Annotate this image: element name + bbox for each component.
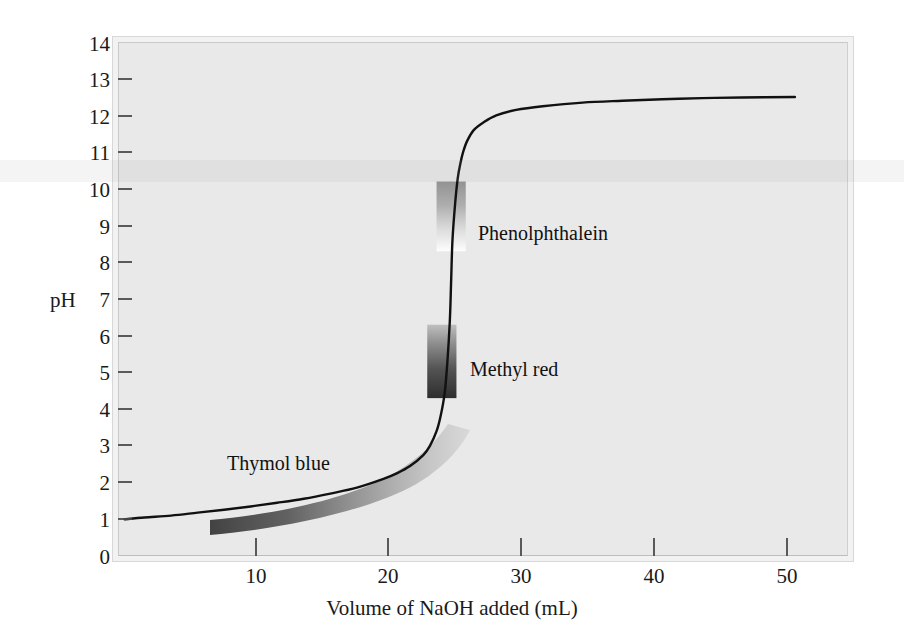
ytick-label-4: 4 xyxy=(70,400,110,421)
titration-curve-figure: 0 1 2 3 4 5 6 7 8 9 10 11 12 13 14 10 20… xyxy=(0,0,904,637)
ytick-label-0: 0 xyxy=(70,547,110,568)
xtick-label-20: 20 xyxy=(358,566,418,587)
indicator-band-methyl-red xyxy=(427,325,456,398)
y-axis-ticks xyxy=(118,79,132,519)
indicator-band-thymol-blue xyxy=(210,424,470,535)
x-axis-ticks xyxy=(256,538,787,556)
plot-area xyxy=(118,42,848,556)
label-methyl-red: Methyl red xyxy=(470,358,558,381)
ytick-label-9: 9 xyxy=(70,217,110,238)
xtick-label-50: 50 xyxy=(757,566,817,587)
ytick-label-10: 10 xyxy=(70,180,110,201)
ytick-label-8: 8 xyxy=(70,253,110,274)
xtick-label-10: 10 xyxy=(226,566,286,587)
ytick-label-6: 6 xyxy=(70,327,110,348)
y-axis-title: pH xyxy=(50,288,76,313)
label-thymol-blue: Thymol blue xyxy=(227,452,330,475)
xtick-label-30: 30 xyxy=(491,566,551,587)
ytick-label-7: 7 xyxy=(70,290,110,311)
ytick-label-3: 3 xyxy=(70,436,110,457)
ytick-label-11: 11 xyxy=(70,143,110,164)
ytick-label-14: 14 xyxy=(70,34,110,55)
x-axis-tick-labels: 10 20 30 40 50 xyxy=(118,566,848,594)
ytick-label-5: 5 xyxy=(70,363,110,384)
chart-canvas xyxy=(118,42,848,556)
titration-curve xyxy=(125,97,795,519)
ytick-label-12: 12 xyxy=(70,107,110,128)
ytick-label-2: 2 xyxy=(70,473,110,494)
indicator-band-phenolphthalein xyxy=(437,182,466,252)
ytick-label-1: 1 xyxy=(70,510,110,531)
xtick-label-40: 40 xyxy=(624,566,684,587)
ytick-label-13: 13 xyxy=(70,70,110,91)
x-axis-title: Volume of NaOH added (mL) xyxy=(0,596,904,621)
label-phenolphthalein: Phenolphthalein xyxy=(478,222,608,245)
